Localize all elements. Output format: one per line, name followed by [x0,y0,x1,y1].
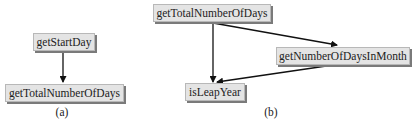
node-b-gettotalnumberofdays: getTotalNumberOfDays [153,4,271,22]
caption-b: (b) [259,106,283,118]
node-a-getstartday: getStartDay [33,33,95,51]
node-label: getTotalNumberOfDays [157,7,268,19]
caption-a: (a) [50,106,74,118]
node-b-isleapyear: isLeapYear [185,83,245,101]
node-label: getNumberOfDaysInMonth [279,50,407,62]
edge-b-gettotalnumberofdays-to-getnumberofdaysinmonth [213,23,337,45]
node-a-gettotalnumberofdays: getTotalNumberOfDays [5,84,124,102]
node-label: getTotalNumberOfDays [9,87,120,99]
node-b-getnumberofdaysinmonth: getNumberOfDaysInMonth [276,47,410,65]
node-label: isLeapYear [189,86,241,98]
node-label: getStartDay [37,36,92,48]
edge-b-getnumberofdaysinmonth-to-isleapyear [217,64,340,82]
